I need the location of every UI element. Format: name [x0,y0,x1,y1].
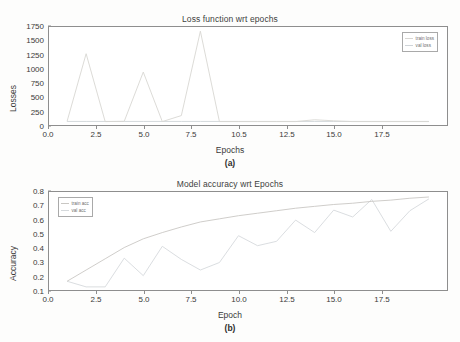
x-tick-mark [48,291,49,294]
y-axis-ticks-accuracy: 0.1 0.2 0.3 0.4 0.5 0.6 0.7 0.8 [0,191,44,291]
y-tick-label: 750 [31,79,44,88]
y-tick-label: 250 [31,107,44,116]
y-tick-label: 0.8 [33,187,44,196]
y-tick-label: 0.6 [33,215,44,224]
x-tick-label: 7.5 [185,295,196,304]
subfigure-caption-a: (a) [0,158,460,168]
y-tick-label: 0.5 [33,229,44,238]
x-tick-mark [382,291,383,294]
x-tick-mark [334,126,335,129]
y-tick-label: 0.3 [33,258,44,267]
figure-b-accuracy: Model accuracy wrt Epochs 0.1 0.2 0.3 0.… [0,171,460,342]
chart-title-accuracy: Model accuracy wrt Epochs [0,179,460,189]
legend-accuracy: train acc val acc [58,197,93,217]
x-tick-mark [239,126,240,129]
x-tick-label: 12.5 [279,130,295,139]
subfigure-caption-a-text: (a) [225,158,235,168]
x-tick-mark [239,291,240,294]
y-tick-label: 0.7 [33,201,44,210]
x-axis-label-accuracy: Epoch [0,310,460,320]
x-tick-label: 10.0 [231,295,247,304]
legend-swatch-icon [61,203,69,204]
x-tick-label: 0.0 [42,130,53,139]
x-tick-label: 5.0 [138,295,149,304]
x-tick-mark [287,126,288,129]
y-axis-ticks-loss: 0 250 500 750 1000 1250 1500 1750 [0,26,44,126]
subfigure-caption-b: (b) [0,323,460,333]
accuracy-curves [49,192,447,290]
axes-frame-accuracy: train acc val acc [48,191,448,291]
x-tick-label: 15.0 [326,130,342,139]
legend-item-train-loss: train loss [405,35,434,42]
x-tick-mark [191,126,192,129]
x-axis-label-loss: Epochs [0,145,460,155]
x-tick-mark [96,126,97,129]
figure-a-loss: Loss function wrt epochs 0 250 500 750 1… [0,0,460,171]
x-tick-mark [144,291,145,294]
x-tick-label: 5.0 [138,130,149,139]
legend-label: train acc [72,200,89,207]
legend-label: train loss [416,35,434,42]
legend-swatch-icon [405,38,413,39]
x-tick-mark [96,291,97,294]
legend-swatch-icon [405,45,413,46]
y-tick-label: 1000 [26,64,44,73]
y-axis-label-loss: Losses [8,85,18,112]
x-tick-mark [334,291,335,294]
x-tick-mark [287,291,288,294]
x-tick-label: 2.5 [90,295,101,304]
x-tick-label: 10.5 [231,130,247,139]
y-tick-label: 0.2 [33,272,44,281]
y-axis-label-accuracy: Accuracy [8,246,18,281]
y-tick-label: 1750 [26,22,44,31]
subfigure-caption-b-text: (b) [225,323,236,333]
y-tick-label: 500 [31,93,44,102]
x-axis-ticks-loss: 0.0 2.5 5.0 7.5 10.5 12.5 15.0 17.5 [0,126,460,142]
plot-area-accuracy: 0.1 0.2 0.3 0.4 0.5 0.6 0.7 0.8 train [0,191,460,291]
x-tick-mark [144,126,145,129]
legend-item-val-loss: val loss [405,42,434,49]
x-tick-label: 17.5 [374,295,390,304]
x-tick-label: 0.0 [42,295,53,304]
x-tick-mark [48,126,49,129]
legend-loss: train loss val loss [402,32,438,52]
chart-title-loss: Loss function wrt epochs [0,14,460,24]
x-tick-label: 17.5 [374,130,390,139]
plot-area-loss: 0 250 500 750 1000 1250 1500 1750 tra [0,26,460,126]
legend-item-val-acc: val acc [61,207,89,214]
axes-frame-loss: train loss val loss [48,26,448,126]
x-tick-label: 2.5 [90,130,101,139]
x-tick-label: 15.0 [326,295,342,304]
x-tick-mark [191,291,192,294]
y-tick-label: 1500 [26,36,44,45]
loss-curves [49,27,447,125]
x-tick-mark [382,126,383,129]
x-tick-label: 7.5 [185,130,196,139]
legend-item-train-acc: train acc [61,200,89,207]
x-axis-ticks-accuracy: 0.0 2.5 5.0 7.5 10.0 12.5 15.0 17.5 [0,291,460,307]
y-tick-label: 0.4 [33,244,44,253]
legend-label: val acc [72,207,86,214]
x-tick-label: 12.5 [279,295,295,304]
legend-label: val loss [416,42,431,49]
legend-swatch-icon [61,210,69,211]
y-tick-label: 1250 [26,50,44,59]
